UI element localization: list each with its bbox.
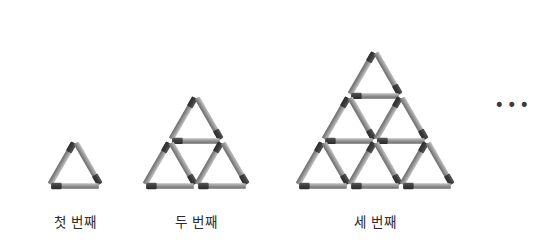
match-head bbox=[146, 183, 156, 189]
match-base-r2-c2 bbox=[403, 183, 451, 189]
match-base-r1-c1 bbox=[198, 183, 246, 189]
match-base-r2-c1 bbox=[351, 183, 399, 189]
match-right-r0-c0 bbox=[73, 141, 102, 185]
figure-1-caption: 첫 번째 bbox=[54, 211, 96, 231]
match-head bbox=[51, 183, 61, 189]
match-head bbox=[198, 183, 208, 189]
match-left-r1-c1 bbox=[194, 141, 223, 185]
match-left-r2-c0 bbox=[295, 141, 324, 185]
figure-1 bbox=[47, 141, 102, 189]
match-left-r1-c1 bbox=[373, 96, 402, 140]
match-left-r2-c1 bbox=[347, 141, 376, 185]
match-left-r1-c0 bbox=[321, 96, 350, 140]
figure-2-caption: 두 번째 bbox=[175, 211, 217, 231]
match-left-r0-c0 bbox=[347, 51, 376, 95]
match-base-r0-c0 bbox=[51, 183, 99, 189]
match-head bbox=[403, 183, 413, 189]
match-base-r2-c0 bbox=[299, 183, 347, 189]
match-base-r0-c0 bbox=[172, 138, 220, 144]
match-right-r2-c1 bbox=[373, 141, 402, 185]
match-base-r1-c1 bbox=[377, 138, 425, 144]
match-right-r1-c1 bbox=[220, 141, 249, 185]
match-right-r2-c2 bbox=[425, 141, 454, 185]
match-left-r0-c0 bbox=[168, 96, 197, 140]
match-right-r0-c0 bbox=[194, 96, 223, 140]
match-right-r0-c0 bbox=[373, 51, 402, 95]
match-right-r2-c0 bbox=[321, 141, 350, 185]
match-head bbox=[351, 183, 361, 189]
match-left-r1-c0 bbox=[142, 141, 171, 185]
match-base-r1-c0 bbox=[325, 138, 373, 144]
match-left-r2-c2 bbox=[399, 141, 428, 185]
match-right-r1-c1 bbox=[399, 96, 428, 140]
match-right-r1-c0 bbox=[168, 141, 197, 185]
figure-3-caption: 세 번째 bbox=[354, 211, 396, 231]
figure-3 bbox=[295, 51, 454, 189]
figures-layer bbox=[47, 51, 454, 189]
match-base-r1-c0 bbox=[146, 183, 194, 189]
match-left-r0-c0 bbox=[47, 141, 76, 185]
match-base-r0-c0 bbox=[351, 93, 399, 99]
figure-2 bbox=[142, 96, 249, 189]
match-right-r1-c0 bbox=[347, 96, 376, 140]
continuation-ellipsis: ••• bbox=[494, 97, 532, 114]
match-head bbox=[299, 183, 309, 189]
